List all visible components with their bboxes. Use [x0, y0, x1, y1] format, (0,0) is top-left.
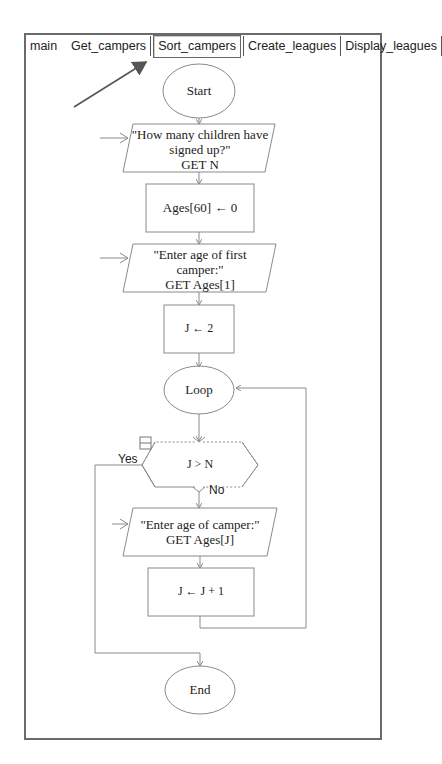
input-n-label: "How many children have signed up?" GET … — [128, 127, 272, 172]
condition-label: J > N — [160, 457, 240, 472]
increment-j-label: J ← J + 1 — [148, 584, 254, 599]
input-age-j-label: "Enter age of camper:" GET Ages[J] — [125, 517, 275, 547]
yes-label: Yes — [118, 452, 142, 467]
assign-j-label: J ← 2 — [164, 321, 234, 336]
end-label: End — [165, 682, 235, 697]
no-label: No — [209, 483, 233, 498]
input-first-age-label: "Enter age of first camper:" GET Ages[1] — [128, 247, 272, 292]
loop-label: Loop — [164, 382, 234, 397]
yes-connector — [95, 465, 200, 666]
annotation-arrow — [74, 62, 146, 107]
start-label: Start — [163, 83, 235, 98]
assign-ages-label: Ages[60] ← 0 — [146, 200, 254, 215]
